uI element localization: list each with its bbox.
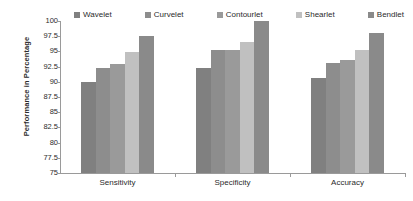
- bar-group-specificity: [196, 21, 269, 173]
- bar-shearlet-specificity[interactable]: [240, 42, 255, 173]
- y-tick-mark: [57, 127, 60, 128]
- y-tick-mark: [57, 21, 60, 22]
- y-tick-label: 92.5: [33, 63, 58, 71]
- y-tick-label: 80: [33, 139, 58, 147]
- legend-swatch-icon: [368, 12, 374, 18]
- legend-swatch-icon: [296, 12, 302, 18]
- y-tick-label: 75: [33, 169, 58, 177]
- y-tick-mark: [57, 97, 60, 98]
- bar-bendlet-accuracy[interactable]: [369, 33, 384, 173]
- bar-group-sensitivity: [81, 21, 154, 173]
- bar-shearlet-sensitivity[interactable]: [125, 52, 140, 173]
- y-tick-mark: [57, 36, 60, 37]
- legend-label: Contourlet: [226, 11, 263, 19]
- y-tick-mark: [57, 112, 60, 113]
- bar-curvelet-sensitivity[interactable]: [96, 68, 111, 173]
- bar-wavelet-specificity[interactable]: [196, 68, 211, 173]
- bar-curvelet-accuracy[interactable]: [326, 63, 341, 173]
- y-tick-label: 90: [33, 78, 58, 86]
- y-tick-label: 100: [33, 17, 58, 25]
- chart-legend: WaveletCurveletContourletShearletBendlet: [74, 8, 404, 21]
- legend-item-contourlet[interactable]: Contourlet: [217, 11, 263, 19]
- y-tick-label: 85: [33, 108, 58, 116]
- x-tick-label-sensitivity: Sensitivity: [60, 179, 175, 187]
- y-axis-line: [60, 21, 61, 174]
- x-category-separator: [175, 173, 176, 177]
- bar-curvelet-specificity[interactable]: [211, 50, 226, 173]
- y-tick-mark: [57, 173, 60, 174]
- y-tick-label: 87.5: [33, 93, 58, 101]
- legend-swatch-icon: [217, 12, 223, 18]
- legend-swatch-icon: [74, 12, 80, 18]
- legend-label: Bendlet: [377, 11, 404, 19]
- x-axis-line: [60, 173, 405, 174]
- y-tick-label: 95: [33, 48, 58, 56]
- legend-label: Wavelet: [83, 11, 112, 19]
- bar-bendlet-sensitivity[interactable]: [139, 36, 154, 173]
- x-tick-label-specificity: Specificity: [175, 179, 290, 187]
- y-tick-mark: [57, 158, 60, 159]
- y-tick-mark: [57, 51, 60, 52]
- x-tick-label-accuracy: Accuracy: [290, 179, 405, 187]
- bar-contourlet-accuracy[interactable]: [340, 60, 355, 173]
- bar-contourlet-specificity[interactable]: [225, 50, 240, 173]
- bar-shearlet-accuracy[interactable]: [355, 50, 370, 173]
- x-axis-end-tick: [405, 173, 406, 177]
- x-category-separator: [290, 173, 291, 177]
- bar-wavelet-sensitivity[interactable]: [81, 82, 96, 173]
- plot-area: [60, 21, 405, 173]
- legend-swatch-icon: [145, 12, 151, 18]
- bar-contourlet-sensitivity[interactable]: [110, 64, 125, 173]
- legend-item-shearlet[interactable]: Shearlet: [296, 11, 335, 19]
- bar-chart: WaveletCurveletContourletShearletBendlet…: [0, 0, 413, 201]
- y-tick-mark: [57, 82, 60, 83]
- y-axis-tick-labels: 10097.59592.59087.58582.58077.575: [33, 21, 58, 173]
- legend-item-bendlet[interactable]: Bendlet: [368, 11, 404, 19]
- legend-item-curvelet[interactable]: Curvelet: [145, 11, 184, 19]
- y-tick-mark: [57, 67, 60, 68]
- x-axis-tick-labels: SensitivitySpecificityAccuracy: [60, 179, 405, 191]
- bar-bendlet-specificity[interactable]: [254, 21, 269, 173]
- bar-group-accuracy: [311, 21, 384, 173]
- y-tick-label: 82.5: [33, 124, 58, 132]
- legend-label: Shearlet: [305, 11, 335, 19]
- y-tick-label: 97.5: [33, 32, 58, 40]
- y-tick-label: 77.5: [33, 154, 58, 162]
- legend-label: Curvelet: [154, 11, 184, 19]
- bar-wavelet-accuracy[interactable]: [311, 78, 326, 173]
- y-axis-title: Performance in Percentage: [22, 12, 31, 162]
- legend-item-wavelet[interactable]: Wavelet: [74, 11, 112, 19]
- y-tick-mark: [57, 143, 60, 144]
